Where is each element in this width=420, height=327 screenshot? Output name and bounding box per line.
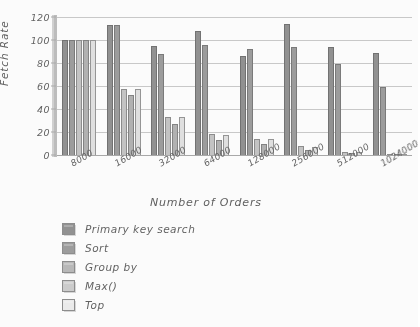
bar-group-1024000 xyxy=(368,17,412,155)
bar-512000-series-1 xyxy=(335,64,341,155)
y-tick-label-60: 60 xyxy=(37,81,50,92)
bar-8000-series-2 xyxy=(76,40,82,155)
legend-label-0: Primary key search xyxy=(85,223,195,235)
bar-1024000-series-1 xyxy=(380,87,386,155)
chart-legend: Primary key searchSortGroup byMax()Top xyxy=(62,219,195,314)
legend-label-4: Top xyxy=(85,299,105,311)
y-axis-title: Fetch Rate xyxy=(0,20,10,86)
legend-label-2: Group by xyxy=(85,261,137,273)
legend-swatch-icon-0 xyxy=(62,223,75,235)
bar-group-16000 xyxy=(101,17,145,155)
x-axis-title: Number of Orders xyxy=(150,196,262,209)
bar-32000-series-0 xyxy=(151,46,157,155)
y-tick-label-0: 0 xyxy=(44,150,50,161)
bar-group-8000 xyxy=(57,17,101,155)
bar-128000-series-0 xyxy=(240,56,246,155)
legend-swatch-icon-1 xyxy=(62,242,75,254)
legend-swatch-icon-4 xyxy=(62,299,75,311)
bar-group-128000 xyxy=(235,17,279,155)
bar-group-32000 xyxy=(146,17,190,155)
bar-group-64000 xyxy=(190,17,234,155)
bar-16000-series-2 xyxy=(121,89,127,155)
y-tick-label-100: 100 xyxy=(31,35,50,46)
y-tick-label-20: 20 xyxy=(37,127,50,138)
bar-8000-series-4 xyxy=(90,40,96,155)
bar-8000-series-0 xyxy=(62,40,68,155)
y-tick-label-120: 120 xyxy=(31,12,50,23)
legend-item-1: Sort xyxy=(62,238,195,257)
bar-1024000-series-0 xyxy=(373,53,379,155)
bar-16000-series-0 xyxy=(107,25,113,155)
bar-512000-series-0 xyxy=(328,47,334,155)
legend-swatch-icon-3 xyxy=(62,280,75,292)
y-tick-mark-100 xyxy=(51,40,56,41)
bar-8000-series-3 xyxy=(83,40,89,155)
y-tick-mark-40 xyxy=(51,109,56,110)
bar-32000-series-2 xyxy=(165,117,171,155)
bar-64000-series-1 xyxy=(202,45,208,155)
bar-16000-series-1 xyxy=(114,25,120,155)
legend-item-2: Group by xyxy=(62,257,195,276)
bar-256000-series-1 xyxy=(291,47,297,155)
legend-item-3: Max() xyxy=(62,276,195,295)
y-tick-mark-60 xyxy=(51,86,56,87)
bar-8000-series-1 xyxy=(69,40,75,155)
bar-group-256000 xyxy=(279,17,323,155)
y-tick-mark-0 xyxy=(51,155,56,156)
y-tick-label-40: 40 xyxy=(37,104,50,115)
bar-group-512000 xyxy=(323,17,367,155)
legend-swatch-icon-2 xyxy=(62,261,75,273)
y-tick-mark-80 xyxy=(51,63,56,64)
legend-label-3: Max() xyxy=(85,280,117,292)
bar-16000-series-3 xyxy=(128,95,134,155)
bar-64000-series-0 xyxy=(195,31,201,155)
bar-256000-series-0 xyxy=(284,24,290,155)
legend-item-4: Top xyxy=(62,295,195,314)
plot-area: 020406080100120 xyxy=(57,17,412,155)
legend-label-1: Sort xyxy=(85,242,109,254)
bar-32000-series-1 xyxy=(158,54,164,155)
bar-128000-series-1 xyxy=(247,49,253,155)
y-tick-label-80: 80 xyxy=(37,58,50,69)
y-tick-mark-20 xyxy=(51,132,56,133)
y-tick-mark-120 xyxy=(51,17,56,18)
legend-item-0: Primary key search xyxy=(62,219,195,238)
